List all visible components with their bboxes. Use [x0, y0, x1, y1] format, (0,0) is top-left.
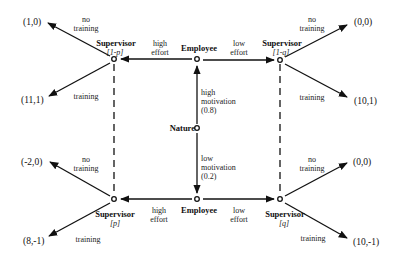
label-employee-top: Employee — [177, 44, 221, 53]
label-tr-training: training — [294, 93, 330, 102]
label-nature: Nature — [165, 124, 195, 133]
label-tr-no-training: no training — [294, 15, 330, 33]
payoff-br-no-training: (0,0) — [353, 157, 371, 167]
label-top-high-effort: high effort — [146, 39, 174, 57]
label-supervisor-br: Supervisor — [263, 210, 307, 219]
label-bl-no-training: no training — [68, 155, 104, 173]
label-tl-no-training: no training — [68, 15, 104, 33]
payoff-br-training: (10,-1) — [353, 237, 379, 247]
label-supervisor-tr: Supervisor — [260, 39, 304, 48]
label-supervisor-bl: Supervisor — [93, 210, 137, 219]
payoff-tl-training: (11,1) — [21, 95, 44, 105]
node-supervisor-bl — [112, 197, 117, 202]
label-bottom-low-effort: low effort — [225, 206, 253, 224]
node-supervisor-tl — [112, 57, 117, 62]
label-bottom-high-effort: high effort — [145, 206, 173, 224]
payoff-tr-training: (10,1) — [354, 96, 377, 106]
node-employee-top — [195, 57, 200, 62]
label-belief-1-q: [1-q] — [266, 48, 296, 57]
payoff-tl-no-training: (1,0) — [23, 17, 41, 27]
label-belief-1-p: [1-p] — [100, 48, 130, 57]
label-employee-bottom: Employee — [177, 206, 221, 215]
payoff-bl-no-training: (-2,0) — [21, 157, 42, 167]
node-supervisor-tr — [278, 58, 283, 63]
game-tree-edges — [0, 0, 397, 259]
node-supervisor-br — [278, 197, 283, 202]
payoff-tr-no-training: (0,0) — [354, 17, 372, 27]
label-top-low-effort: low effort — [225, 39, 253, 57]
label-low-motivation: low motivation (0.2) — [201, 154, 236, 181]
node-nature — [195, 126, 200, 131]
label-br-no-training: no training — [294, 155, 330, 173]
label-tl-training: training — [68, 92, 104, 101]
label-br-training: training — [295, 234, 331, 243]
node-employee-bottom — [195, 197, 200, 202]
payoff-bl-training: (8,-1) — [23, 236, 44, 246]
label-belief-q: [q] — [269, 219, 299, 228]
label-supervisor-tl: Supervisor — [94, 39, 138, 48]
label-belief-p: [p] — [100, 219, 130, 228]
label-bl-training: training — [70, 235, 106, 244]
label-high-motivation: high motivation (0.8) — [201, 88, 236, 115]
